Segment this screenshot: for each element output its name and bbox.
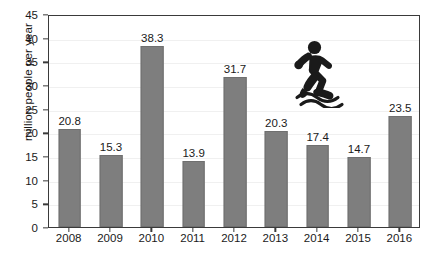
- bar[interactable]: [306, 145, 329, 227]
- bar[interactable]: [224, 77, 247, 227]
- y-axis-tick-label: 45: [0, 9, 38, 21]
- bar-value-label: 38.3: [141, 32, 163, 44]
- bar[interactable]: [389, 116, 412, 227]
- y-axis-tick-label: 0: [0, 222, 38, 234]
- y-axis-tick-label: 40: [0, 33, 38, 45]
- y-axis-tick-label: 25: [0, 104, 38, 116]
- y-axis: 051015202530354045: [0, 0, 48, 260]
- running-person-over-waves-icon: [293, 38, 349, 108]
- x-axis-tick-label: 2014: [304, 232, 330, 244]
- bar[interactable]: [265, 131, 288, 227]
- y-axis-tick-label: 20: [0, 127, 38, 139]
- bar-slot: 20.3: [256, 16, 297, 227]
- y-axis-tick-label: 30: [0, 80, 38, 92]
- x-axis-tick-label: 2008: [56, 232, 82, 244]
- x-axis-tick-label: 2009: [97, 232, 123, 244]
- bar-chart: million people per year 0510152025303540…: [0, 0, 435, 260]
- bar-value-label: 14.7: [348, 143, 370, 155]
- bar-value-label: 31.7: [224, 63, 246, 75]
- y-axis-tick-label: 15: [0, 151, 38, 163]
- x-axis-tick-label: 2015: [345, 232, 371, 244]
- bar[interactable]: [348, 157, 371, 227]
- y-axis-tick-label: 5: [0, 198, 38, 210]
- x-axis-tick-label: 2011: [180, 232, 205, 244]
- bar[interactable]: [141, 46, 164, 227]
- bar-slot: 38.3: [132, 16, 173, 227]
- x-axis-tick-label: 2016: [387, 232, 413, 244]
- bar-series: 20.815.338.313.931.720.317.414.723.5: [49, 16, 419, 227]
- bar-value-label: 13.9: [182, 147, 204, 159]
- bar-slot: 23.5: [380, 16, 420, 227]
- bar-slot: 20.8: [49, 16, 90, 227]
- plot-area: 20.815.338.313.931.720.317.414.723.5: [48, 15, 420, 228]
- x-axis-tick-label: 2012: [221, 232, 247, 244]
- bar-value-label: 15.3: [100, 141, 122, 153]
- bar-value-label: 20.8: [58, 115, 80, 127]
- y-axis-tick-label: 35: [0, 56, 38, 68]
- bar-value-label: 17.4: [306, 131, 328, 143]
- bar[interactable]: [100, 155, 123, 227]
- x-axis-tick-label: 2013: [263, 232, 289, 244]
- bar-value-label: 20.3: [265, 117, 287, 129]
- x-axis: 200820092010201120122013201420152016: [48, 232, 420, 252]
- bar-slot: 31.7: [214, 16, 255, 227]
- x-axis-tick-label: 2010: [139, 232, 165, 244]
- bar[interactable]: [58, 129, 81, 227]
- y-axis-tick-label: 10: [0, 175, 38, 187]
- bar-slot: 15.3: [90, 16, 131, 227]
- bar[interactable]: [182, 161, 205, 227]
- bar-slot: 13.9: [173, 16, 214, 227]
- bar-value-label: 23.5: [389, 102, 411, 114]
